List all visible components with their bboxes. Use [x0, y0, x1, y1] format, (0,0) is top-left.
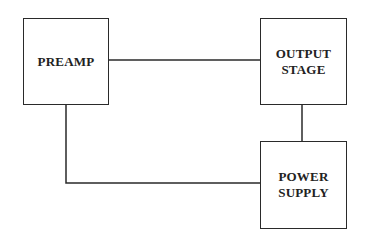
preamp-block: PREAMP — [23, 18, 109, 105]
output-stage-block: OUTPUT STAGE — [260, 18, 347, 105]
output-stage-label: OUTPUT STAGE — [276, 46, 331, 78]
preamp-label: PREAMP — [38, 54, 95, 70]
power-supply-block: POWER SUPPLY — [260, 141, 347, 229]
connector-preamp-power-supply — [66, 105, 261, 183]
power-supply-label: POWER SUPPLY — [278, 169, 329, 201]
